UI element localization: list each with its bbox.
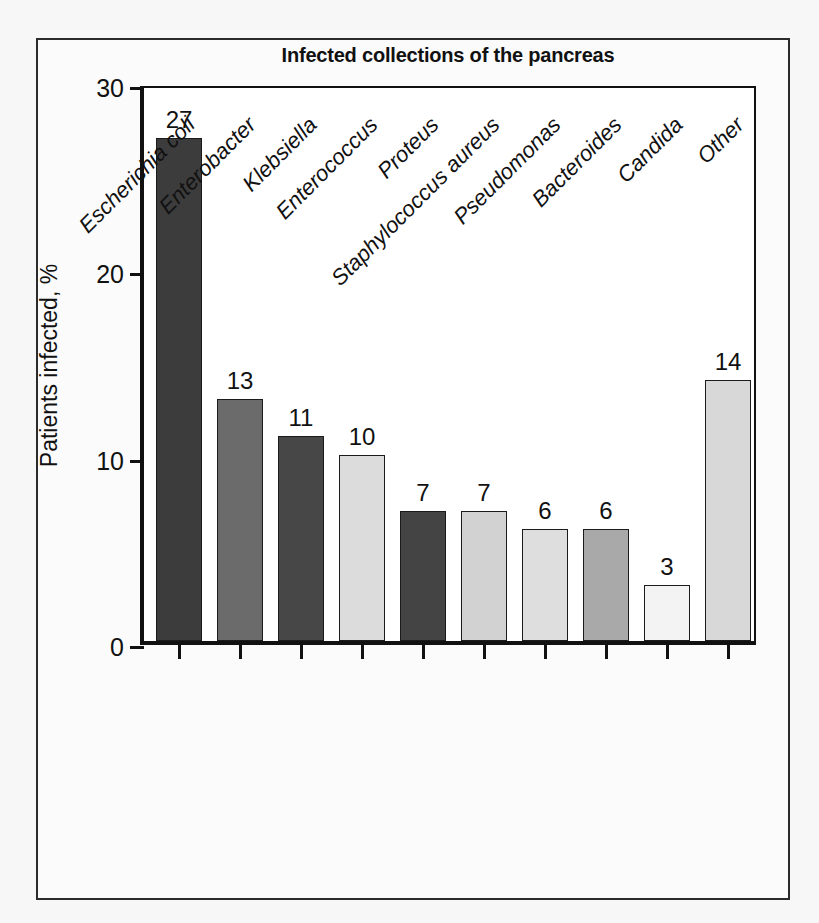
figure-root: Infected collections of the pancreas Pat… [0, 0, 819, 923]
x-tick-mark [178, 641, 181, 659]
x-tick-mark [727, 641, 730, 659]
bar[interactable] [339, 455, 385, 641]
x-tick-mark [483, 641, 486, 659]
x-tick-mark [300, 641, 303, 659]
bar[interactable] [278, 436, 324, 641]
x-tick-mark [605, 641, 608, 659]
y-tick-label: 10 [96, 447, 124, 476]
bar[interactable] [644, 585, 690, 641]
bar-value-label: 13 [203, 367, 277, 395]
bar[interactable] [583, 529, 629, 641]
bar-value-label: 6 [569, 497, 643, 525]
y-tick-label: 20 [96, 260, 124, 289]
bar[interactable] [156, 138, 202, 641]
x-tick-mark [544, 641, 547, 659]
y-axis-title: Patients infected, % [36, 86, 64, 645]
bar[interactable] [705, 380, 751, 641]
plot-area: 0102030 271311107766314 Escherichia coli… [140, 86, 756, 645]
bar[interactable] [217, 399, 263, 641]
bar-value-label: 10 [325, 423, 399, 451]
x-tick-mark [239, 641, 242, 659]
bar-value-label: 3 [630, 553, 704, 581]
y-tick-label: 30 [96, 74, 124, 103]
y-tick-mark [130, 646, 144, 649]
x-tick-mark [666, 641, 669, 659]
y-tick-mark [130, 87, 144, 90]
y-tick-mark [130, 460, 144, 463]
y-tick-label: 0 [110, 633, 124, 662]
bar-value-label: 14 [691, 348, 765, 376]
x-tick-mark [422, 641, 425, 659]
x-tick-mark [361, 641, 364, 659]
bar[interactable] [400, 511, 446, 641]
bar[interactable] [522, 529, 568, 641]
y-tick-mark [130, 273, 144, 276]
bar[interactable] [461, 511, 507, 641]
chart-title: Infected collections of the pancreas [140, 44, 756, 67]
